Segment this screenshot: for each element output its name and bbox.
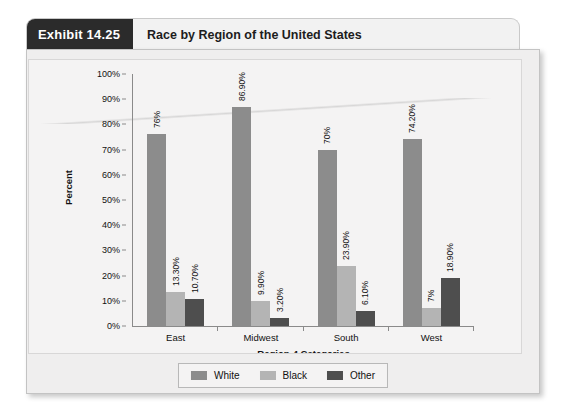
y-axis-tick-mark <box>122 275 126 276</box>
legend-label: White <box>214 370 240 381</box>
bar-west-black[interactable]: 7% <box>422 74 441 326</box>
y-axis-tick-mark <box>122 174 126 175</box>
bar-south-other[interactable]: 6.10% <box>356 74 375 326</box>
bar-value-label: 7% <box>426 290 436 302</box>
bar-east-other[interactable]: 10.70% <box>185 74 204 326</box>
bar-group-south: 70%23.90%6.10% <box>304 74 389 326</box>
bar-west-other[interactable]: 18.90% <box>441 74 460 326</box>
y-axis-title: Percent <box>63 170 74 205</box>
y-axis-tick-mark <box>122 300 126 301</box>
bar-rect <box>232 107 251 326</box>
bar-rect <box>318 150 337 326</box>
legend-item-black[interactable]: Black <box>260 370 307 381</box>
bar-rect <box>270 318 289 326</box>
legend-swatch-icon <box>327 371 343 380</box>
bar-rect <box>337 266 356 326</box>
bar-east-white[interactable]: 76% <box>147 74 166 326</box>
y-axis-tick-mark <box>122 250 126 251</box>
y-axis-tick-label: 30% <box>102 245 120 255</box>
bar-group-west: 74.20%7%18.90% <box>389 74 474 326</box>
bar-west-white[interactable]: 74.20% <box>403 74 422 326</box>
x-axis-tick-mark <box>388 326 389 331</box>
y-axis-tick-label: 80% <box>102 119 120 129</box>
y-axis-tick-mark <box>122 149 126 150</box>
chart-legend: WhiteBlackOther <box>178 363 388 388</box>
bar-south-white[interactable]: 70% <box>318 74 337 326</box>
x-axis-category-midwest: Midwest <box>243 332 278 343</box>
bar-east-black[interactable]: 13.30% <box>166 74 185 326</box>
bar-value-label: 13.30% <box>170 258 180 287</box>
exhibit-card: Exhibit 14.25 Race by Region of the Unit… <box>26 18 540 394</box>
exhibit-title: Race by Region of the United States <box>133 19 362 50</box>
y-axis-tick-mark <box>122 124 126 125</box>
bar-value-label: 23.90% <box>341 231 351 260</box>
y-axis-tick-label: 70% <box>102 145 120 155</box>
legend-label: Black <box>283 370 307 381</box>
exhibit-body: Percent 0%10%20%30%40%50%60%70%80%90%100… <box>26 49 540 394</box>
y-axis-tick-label: 60% <box>102 170 120 180</box>
bar-rect <box>251 301 270 326</box>
bar-value-label: 74.20% <box>407 104 417 133</box>
y-axis-tick-label: 50% <box>102 195 120 205</box>
bar-value-label: 70% <box>322 127 332 144</box>
chart-canvas: Percent 0%10%20%30%40%50%60%70%80%90%100… <box>29 60 521 353</box>
x-axis-tick-mark <box>217 326 218 331</box>
chart-plot-frame: Percent 0%10%20%30%40%50%60%70%80%90%100… <box>28 59 522 354</box>
y-axis-tick-label: 100% <box>97 69 120 79</box>
legend-label: Other <box>350 370 375 381</box>
y-axis-ticks: 0%10%20%30%40%50%60%70%80%90%100% <box>74 74 126 326</box>
bar-rect <box>422 308 441 326</box>
y-axis-tick-mark <box>122 225 126 226</box>
bar-group-midwest: 86.90%9.90%3.20% <box>218 74 303 326</box>
bar-value-label: 18.90% <box>445 244 455 273</box>
y-axis-tick-label: 90% <box>102 94 120 104</box>
y-axis-tick-mark <box>122 74 126 75</box>
y-axis-tick-label: 0% <box>107 321 120 331</box>
bar-south-black[interactable]: 23.90% <box>337 74 356 326</box>
legend-item-other[interactable]: Other <box>327 370 375 381</box>
bar-rect <box>441 278 460 326</box>
y-axis-tick-mark <box>122 99 126 100</box>
bar-rect <box>403 139 422 326</box>
y-axis-tick-mark <box>122 200 126 201</box>
y-axis-tick-label: 20% <box>102 271 120 281</box>
bar-value-label: 10.70% <box>189 264 199 293</box>
bar-midwest-black[interactable]: 9.90% <box>251 74 270 326</box>
legend-swatch-icon <box>191 371 207 380</box>
legend-item-white[interactable]: White <box>191 370 240 381</box>
legend-swatch-icon <box>260 371 276 380</box>
x-axis-category-south: South <box>334 332 359 343</box>
bar-value-label: 6.10% <box>360 281 370 305</box>
x-axis-tick-mark <box>473 326 474 331</box>
bar-rect <box>356 311 375 326</box>
bars-container: 76%13.30%10.70%86.90%9.90%3.20%70%23.90%… <box>133 74 474 326</box>
x-axis-title: Region-4 Categories <box>133 348 474 354</box>
bar-rect <box>185 299 204 326</box>
bar-value-label: 76% <box>151 111 161 128</box>
x-axis-category-east: East <box>166 332 185 343</box>
bar-rect <box>147 134 166 326</box>
bar-group-east: 76%13.30%10.70% <box>133 74 218 326</box>
bar-value-label: 9.90% <box>255 271 265 295</box>
bar-value-label: 3.20% <box>274 288 284 312</box>
bar-value-label: 86.90% <box>236 72 246 101</box>
y-axis-tick-label: 40% <box>102 220 120 230</box>
y-axis-tick-mark <box>122 326 126 327</box>
exhibit-header: Exhibit 14.25 Race by Region of the Unit… <box>26 18 520 50</box>
y-axis-tick-label: 10% <box>102 296 120 306</box>
bar-rect <box>166 292 185 326</box>
x-axis-category-west: West <box>421 332 442 343</box>
bar-midwest-white[interactable]: 86.90% <box>232 74 251 326</box>
bar-midwest-other[interactable]: 3.20% <box>270 74 289 326</box>
x-axis-tick-mark <box>303 326 304 331</box>
exhibit-number-tab: Exhibit 14.25 <box>26 18 133 50</box>
